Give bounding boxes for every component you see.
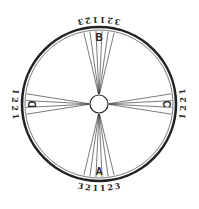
sector-letter-b: B	[95, 32, 102, 43]
diagram-canvas: 321123A321123B1221C1221D	[0, 0, 199, 209]
scale-label: 2	[85, 15, 92, 26]
scale-label: 2	[10, 97, 20, 103]
scale-label: 1	[11, 113, 22, 120]
sector-letter-d: D	[27, 100, 38, 107]
hub	[90, 95, 108, 113]
scale-label: 3	[76, 17, 84, 28]
sector-letter-a: A	[95, 166, 102, 177]
scale-label: 3	[114, 180, 122, 191]
scale-label: 1	[100, 15, 106, 25]
scale-label: 1	[177, 88, 188, 95]
scale-label: 1	[11, 88, 22, 95]
sector-letter-c: C	[161, 100, 172, 107]
scale-label: 1	[100, 183, 106, 193]
scale-label: 3	[77, 181, 85, 192]
circle-diagram: 321123A321123B1221C1221D	[0, 0, 199, 209]
scale-label: 2	[85, 182, 92, 193]
scale-label: 2	[178, 97, 188, 103]
scale-label: 1	[92, 183, 98, 193]
scale-label: 1	[177, 113, 188, 120]
scale-label: 2	[107, 15, 114, 26]
scale-label: 3	[113, 16, 121, 27]
scale-label: 2	[10, 105, 20, 111]
scale-label: 2	[107, 182, 114, 193]
scale-label: 2	[178, 105, 188, 111]
scale-label: 1	[92, 15, 98, 25]
